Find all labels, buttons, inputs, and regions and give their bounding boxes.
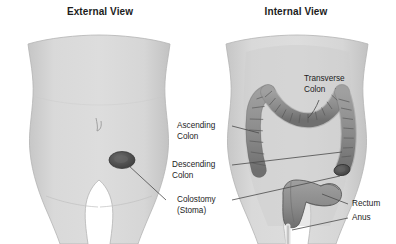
label-colostomy-line1: Colostomy — [177, 195, 216, 206]
label-anus: Anus — [352, 213, 371, 224]
label-colostomy-line2: (Stoma) — [177, 206, 216, 217]
external-torso — [28, 35, 170, 244]
label-transverse-colon: Transverse Colon — [304, 74, 345, 95]
label-descending-colon: Descending Colon — [172, 160, 215, 181]
label-ascending-colon-line2: Colon — [177, 132, 215, 143]
label-transverse-colon-line1: Transverse — [304, 74, 345, 85]
label-ascending-colon-line1: Ascending — [177, 121, 215, 132]
label-descending-colon-line2: Colon — [172, 171, 215, 182]
label-rectum: Rectum — [352, 199, 380, 210]
label-anus-line1: Anus — [352, 213, 371, 224]
colostomy-diagram: External View Internal View — [0, 0, 396, 244]
label-colostomy-stoma: Colostomy (Stoma) — [177, 195, 216, 216]
label-descending-colon-line1: Descending — [172, 160, 215, 171]
label-ascending-colon: Ascending Colon — [177, 121, 215, 142]
label-rectum-line1: Rectum — [352, 199, 380, 210]
label-transverse-colon-line2: Colon — [304, 85, 345, 96]
internal-torso — [226, 35, 368, 244]
